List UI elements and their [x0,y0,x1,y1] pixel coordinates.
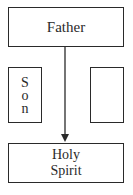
arrowhead-icon [61,134,69,142]
arrow-father-to-spirit [0,0,133,195]
